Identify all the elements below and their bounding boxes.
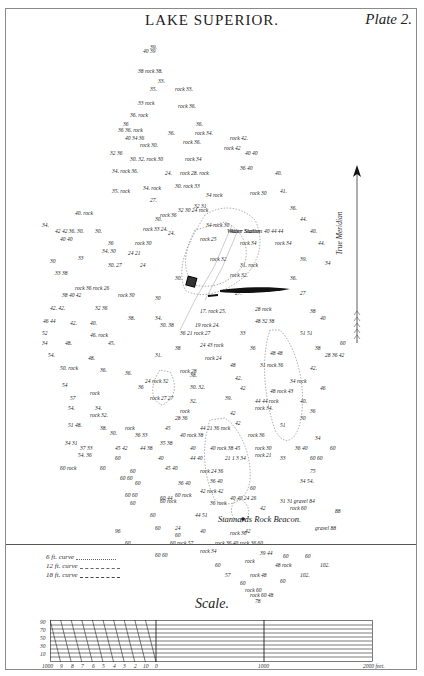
scale-row-label: 70 <box>40 627 46 633</box>
scale-row-label: 10 <box>40 651 46 657</box>
depth-curve-legend: 6 ft. curve 12 ft. curve 18 ft. curve <box>46 553 120 580</box>
scale-tick: 2000 feet. <box>363 663 385 669</box>
beacon-label: Stannards Rock Beacon. <box>218 514 301 524</box>
legend-item: 12 ft. curve <box>46 562 120 571</box>
dash-dot-line-icon <box>80 577 120 578</box>
scale-tick: 2 <box>134 663 137 669</box>
scale-title: Scale. <box>0 596 424 612</box>
dotted-line-icon <box>76 559 116 560</box>
scale-tick: 5 <box>102 663 105 669</box>
scale-row-label: 90 <box>40 619 46 625</box>
scale-row-label: 50 <box>40 635 46 641</box>
diagonal-scale-bar <box>50 620 375 668</box>
scale-tick: 7 <box>81 663 84 669</box>
scale-tick: 6 <box>92 663 95 669</box>
scale-tick: 1000 <box>258 663 269 669</box>
legend-item: 6 ft. curve <box>46 553 120 562</box>
scale-tick: 3 <box>123 663 126 669</box>
scale-tick: 8 <box>71 663 74 669</box>
scale-tick: 1000 <box>42 663 53 669</box>
chart-divider <box>6 544 416 545</box>
scale-tick: 10 <box>143 663 149 669</box>
scale-tick: 0 <box>155 663 158 669</box>
scale-tick: 4 <box>113 663 116 669</box>
water-station-label: Water Station <box>227 227 262 234</box>
dashed-line-icon <box>80 568 120 569</box>
crib-marker <box>186 276 197 287</box>
true-meridian-arrow <box>352 165 362 345</box>
true-meridian-label: True Meridian <box>335 211 344 255</box>
scale-row-label: 30 <box>40 643 46 649</box>
scale-tick: 9 <box>60 663 63 669</box>
legend-item: 18 ft. curve <box>46 571 120 580</box>
